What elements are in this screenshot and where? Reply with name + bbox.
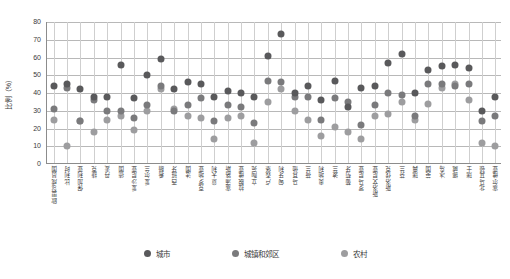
legend-item[interactable]: 农村 — [341, 248, 367, 259]
data-point — [304, 93, 311, 100]
y-axis-tick-label: 20 — [15, 124, 41, 131]
y-axis-tick-label: 60 — [15, 53, 41, 60]
x-gridline — [428, 22, 429, 163]
x-axis-tick-label: 挪威 — [451, 166, 459, 178]
x-axis-tick-label: 塞尔维亚 — [491, 166, 499, 191]
data-point — [438, 63, 445, 70]
x-axis-tick-label: 拉脱维亚 — [237, 166, 245, 191]
y-axis-tick-label: 40 — [15, 89, 41, 96]
data-point — [130, 114, 137, 121]
x-axis-tick-label: 卢森堡 — [264, 166, 272, 185]
legend-label: 城镇和郊区 — [244, 248, 279, 259]
x-gridline — [54, 22, 55, 163]
x-axis-tick-label: 罗马尼亚 — [357, 166, 365, 191]
data-point — [345, 104, 352, 111]
chart-legend: 城市城镇和郊区农村 — [0, 248, 510, 259]
data-point — [478, 107, 485, 114]
data-point — [50, 105, 57, 112]
data-point — [184, 79, 191, 86]
x-axis-tick-label: 葡萄牙 — [344, 166, 352, 185]
data-point — [465, 81, 472, 88]
y-gridline — [47, 40, 501, 41]
data-point — [358, 84, 365, 91]
x-axis-tick-label: 奥地利 — [317, 166, 325, 185]
data-point — [304, 82, 311, 89]
data-point — [318, 97, 325, 104]
data-point — [398, 50, 405, 57]
y-gridline — [47, 58, 501, 59]
data-point — [90, 129, 97, 136]
data-point — [104, 107, 111, 114]
x-gridline — [348, 22, 349, 163]
data-point — [398, 91, 405, 98]
x-axis-tick-label: 塞浦路斯 — [224, 166, 232, 191]
data-point — [385, 90, 392, 97]
legend-marker-icon — [144, 250, 151, 257]
data-point — [278, 86, 285, 93]
y-gridline — [47, 75, 501, 76]
data-point — [238, 90, 245, 97]
data-point — [117, 107, 124, 114]
data-point — [197, 114, 204, 121]
y-gridline — [47, 22, 501, 23]
x-axis-tick-label: 法国 — [184, 166, 192, 178]
data-point — [438, 81, 445, 88]
y-axis-tick-label: 0 — [15, 160, 41, 167]
x-axis-tick-label: 荷兰 — [304, 166, 312, 178]
x-axis-labels: 欧盟28成员国比利时保加利亚捷克丹麦德国爱沙尼亚爱尔兰希腊西班牙法国克罗地亚意大… — [46, 166, 501, 240]
data-point — [238, 104, 245, 111]
data-point — [465, 97, 472, 104]
x-gridline — [147, 22, 148, 163]
data-point — [452, 82, 459, 89]
plot-area: 01020304050607080 — [46, 22, 501, 164]
y-axis-tick-label: 80 — [15, 18, 41, 25]
x-gridline — [134, 22, 135, 163]
data-point — [50, 82, 57, 89]
data-point — [304, 116, 311, 123]
y-gridline — [47, 146, 501, 147]
x-gridline — [188, 22, 189, 163]
data-point — [318, 116, 325, 123]
y-axis-title: 比例（%） — [3, 53, 13, 133]
data-point — [425, 66, 432, 73]
data-point — [492, 113, 499, 120]
data-point — [197, 95, 204, 102]
data-point — [130, 127, 137, 134]
data-point — [251, 120, 258, 127]
data-point — [238, 113, 245, 120]
data-point — [425, 81, 432, 88]
data-point — [197, 81, 204, 88]
data-point — [64, 143, 71, 150]
data-point — [211, 118, 218, 125]
x-axis-tick-label: 北马其顿 — [478, 166, 486, 191]
data-point — [278, 79, 285, 86]
data-point — [50, 116, 57, 123]
data-point — [371, 102, 378, 109]
data-point — [291, 90, 298, 97]
data-point — [385, 59, 392, 66]
data-point — [278, 31, 285, 38]
legend-item[interactable]: 城市 — [144, 248, 170, 259]
x-gridline — [201, 22, 202, 163]
x-gridline — [455, 22, 456, 163]
data-point — [104, 93, 111, 100]
data-point — [224, 88, 231, 95]
x-axis-tick-label: 希腊 — [157, 166, 165, 178]
x-axis-tick-label: 匈牙利 — [277, 166, 285, 185]
data-point — [264, 52, 271, 59]
x-axis-tick-label: 立陶宛 — [250, 166, 258, 185]
data-point — [331, 123, 338, 130]
data-point — [144, 72, 151, 79]
data-point — [64, 81, 71, 88]
data-point — [104, 116, 111, 123]
data-point — [77, 86, 84, 93]
data-point — [412, 113, 419, 120]
y-axis-tick-label: 10 — [15, 142, 41, 149]
x-axis-tick-label: 英国 — [424, 166, 432, 178]
x-axis-tick-label: 保加利亚 — [76, 166, 84, 191]
data-point — [318, 132, 325, 139]
x-axis-tick-label: 捷克 — [90, 166, 98, 178]
y-gridline — [47, 93, 501, 94]
x-axis-tick-label: 爱沙尼亚 — [130, 166, 138, 191]
legend-item[interactable]: 城镇和郊区 — [232, 248, 279, 259]
